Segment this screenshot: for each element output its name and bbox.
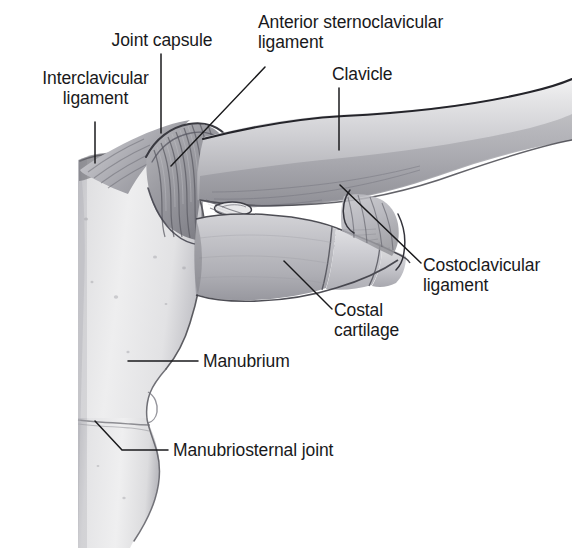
sternum-left-edge-soft xyxy=(78,160,87,548)
label-costal-cartilage: Costal cartilage xyxy=(334,300,454,340)
clavicle-group xyxy=(197,79,572,207)
label-joint-capsule: Joint capsule xyxy=(62,30,262,50)
label-costoclavicular-ligament: Costoclavicular ligament xyxy=(423,255,572,295)
anatomy-figure: Interclavicular ligament Joint capsule A… xyxy=(0,0,572,548)
label-manubrium: Manubrium xyxy=(203,351,363,371)
label-manubriosternal-joint: Manubriosternal joint xyxy=(173,440,433,460)
sternum-body-shape xyxy=(78,418,160,548)
costal-cartilage-medial xyxy=(195,214,336,300)
label-anterior-sternoclavicular-ligament: Anterior sternoclavicular ligament xyxy=(258,12,488,52)
label-clavicle: Clavicle xyxy=(332,64,472,84)
label-interclavicular-ligament: Interclavicular ligament xyxy=(8,68,183,108)
